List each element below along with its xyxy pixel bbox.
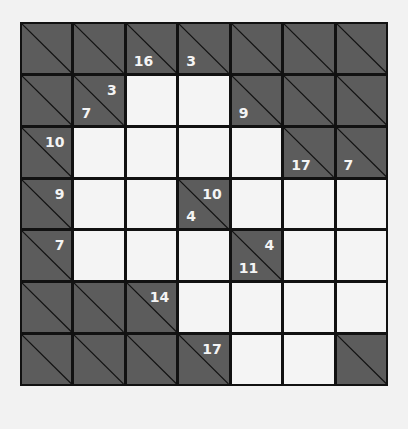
entry-cell-r5-c5[interactable] bbox=[284, 283, 333, 332]
entry-cell-r3-c5[interactable] bbox=[284, 180, 333, 229]
across-clue: 7 bbox=[55, 238, 65, 252]
clue-cell-r0-c3: 3 bbox=[179, 24, 228, 73]
diagonal-divider-icon bbox=[127, 335, 176, 384]
entry-cell-r5-c6[interactable] bbox=[337, 283, 386, 332]
across-clue: 10 bbox=[45, 135, 64, 149]
clue-cell-r1-c5 bbox=[284, 76, 333, 125]
entry-cell-r1-c3[interactable] bbox=[179, 76, 228, 125]
clue-cell-r3-c0: 9 bbox=[22, 180, 71, 229]
clue-cell-r6-c2 bbox=[127, 335, 176, 384]
entry-cell-r4-c5[interactable] bbox=[284, 231, 333, 280]
clue-cell-r6-c6 bbox=[337, 335, 386, 384]
clue-cell-r3-c3: 104 bbox=[179, 180, 228, 229]
down-clue: 4 bbox=[186, 209, 196, 223]
entry-cell-r2-c2[interactable] bbox=[127, 128, 176, 177]
entry-cell-r2-c4[interactable] bbox=[232, 128, 281, 177]
clue-cell-r2-c5: 17 bbox=[284, 128, 333, 177]
diagonal-divider-icon bbox=[74, 283, 123, 332]
clue-cell-r2-c0: 10 bbox=[22, 128, 71, 177]
across-clue: 10 bbox=[202, 187, 221, 201]
across-clue: 3 bbox=[107, 83, 117, 97]
entry-cell-r3-c1[interactable] bbox=[74, 180, 123, 229]
diagonal-divider-icon bbox=[337, 335, 386, 384]
entry-cell-r5-c4[interactable] bbox=[232, 283, 281, 332]
diagonal-divider-icon bbox=[232, 24, 281, 73]
down-clue: 17 bbox=[291, 158, 310, 172]
entry-cell-r4-c2[interactable] bbox=[127, 231, 176, 280]
clue-cell-r6-c3: 17 bbox=[179, 335, 228, 384]
diagonal-divider-icon bbox=[74, 335, 123, 384]
clue-cell-r2-c6: 7 bbox=[337, 128, 386, 177]
entry-cell-r4-c6[interactable] bbox=[337, 231, 386, 280]
clue-cell-r0-c4 bbox=[232, 24, 281, 73]
kakuro-board: 16337910177910474111417 bbox=[20, 22, 388, 386]
clue-cell-r5-c1 bbox=[74, 283, 123, 332]
down-clue: 3 bbox=[186, 54, 196, 68]
clue-cell-r5-c2: 14 bbox=[127, 283, 176, 332]
down-clue: 7 bbox=[81, 106, 91, 120]
diagonal-divider-icon bbox=[22, 24, 71, 73]
entry-cell-r1-c2[interactable] bbox=[127, 76, 176, 125]
entry-cell-r3-c6[interactable] bbox=[337, 180, 386, 229]
across-clue: 14 bbox=[150, 290, 169, 304]
clue-cell-r1-c4: 9 bbox=[232, 76, 281, 125]
diagonal-divider-icon bbox=[284, 24, 333, 73]
diagonal-divider-icon bbox=[337, 76, 386, 125]
clue-cell-r6-c1 bbox=[74, 335, 123, 384]
entry-cell-r5-c3[interactable] bbox=[179, 283, 228, 332]
clue-cell-r6-c0 bbox=[22, 335, 71, 384]
entry-cell-r3-c2[interactable] bbox=[127, 180, 176, 229]
clue-cell-r5-c0 bbox=[22, 283, 71, 332]
entry-cell-r4-c3[interactable] bbox=[179, 231, 228, 280]
down-clue: 9 bbox=[239, 106, 249, 120]
down-clue: 16 bbox=[134, 54, 153, 68]
clue-cell-r1-c6 bbox=[337, 76, 386, 125]
across-clue: 9 bbox=[55, 187, 65, 201]
clue-cell-r4-c0: 7 bbox=[22, 231, 71, 280]
clue-cell-r0-c2: 16 bbox=[127, 24, 176, 73]
diagonal-divider-icon bbox=[284, 76, 333, 125]
entry-cell-r2-c3[interactable] bbox=[179, 128, 228, 177]
across-clue: 4 bbox=[264, 238, 274, 252]
clue-cell-r1-c1: 37 bbox=[74, 76, 123, 125]
diagonal-divider-icon bbox=[74, 24, 123, 73]
diagonal-divider-icon bbox=[337, 24, 386, 73]
entry-cell-r2-c1[interactable] bbox=[74, 128, 123, 177]
clue-cell-r0-c5 bbox=[284, 24, 333, 73]
diagonal-divider-icon bbox=[22, 335, 71, 384]
down-clue: 7 bbox=[344, 158, 354, 172]
across-clue: 17 bbox=[202, 342, 221, 356]
clue-cell-r0-c1 bbox=[74, 24, 123, 73]
down-clue: 11 bbox=[239, 261, 258, 275]
entry-cell-r4-c1[interactable] bbox=[74, 231, 123, 280]
diagonal-divider-icon bbox=[22, 76, 71, 125]
clue-cell-r0-c6 bbox=[337, 24, 386, 73]
entry-cell-r6-c5[interactable] bbox=[284, 335, 333, 384]
entry-cell-r6-c4[interactable] bbox=[232, 335, 281, 384]
clue-cell-r4-c4: 411 bbox=[232, 231, 281, 280]
clue-cell-r0-c0 bbox=[22, 24, 71, 73]
clue-cell-r1-c0 bbox=[22, 76, 71, 125]
diagonal-divider-icon bbox=[22, 283, 71, 332]
entry-cell-r3-c4[interactable] bbox=[232, 180, 281, 229]
